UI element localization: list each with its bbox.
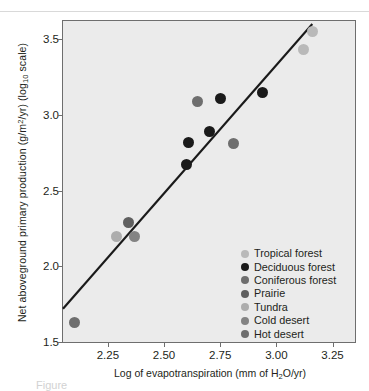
legend-item-label: Deciduous forest bbox=[254, 262, 335, 273]
figure-caption: Figure bbox=[36, 379, 67, 391]
x-axis-label-pre: Log of evapotranspiration (mm of H bbox=[114, 367, 279, 379]
x-axis-tick-mark bbox=[220, 342, 221, 347]
legend-item-label: Prairie bbox=[254, 288, 285, 299]
legend-item: Prairie bbox=[241, 287, 336, 300]
legend-item: Coniferous forest bbox=[241, 274, 336, 287]
y-axis-tick-label: 3.5 bbox=[43, 33, 59, 45]
x-axis-tick-mark bbox=[276, 342, 277, 347]
data-point bbox=[307, 26, 318, 37]
legend-marker-icon bbox=[241, 290, 249, 298]
legend-item: Tundra bbox=[241, 301, 336, 314]
legend-marker-icon bbox=[241, 250, 249, 258]
legend-marker-icon bbox=[241, 303, 249, 311]
data-point bbox=[123, 217, 134, 228]
x-axis-tick-mark bbox=[333, 342, 334, 347]
y-axis-label-mid: /yr) (log bbox=[16, 83, 28, 120]
y-axis-label-sub: 10 bbox=[21, 75, 30, 84]
legend-item-label: Tropical forest bbox=[254, 248, 322, 259]
y-axis-tick-mark bbox=[58, 342, 63, 343]
x-axis-tick-label: 2.75 bbox=[209, 349, 231, 361]
legend-item-label: Cold desert bbox=[254, 315, 309, 326]
data-point bbox=[192, 96, 203, 107]
x-axis-tick-mark bbox=[108, 342, 109, 347]
data-point bbox=[257, 87, 268, 98]
data-point bbox=[129, 231, 140, 242]
y-axis-tick-label: 1.5 bbox=[43, 336, 59, 348]
x-axis-tick-label: 3.25 bbox=[321, 349, 343, 361]
legend-item-label: Tundra bbox=[254, 302, 288, 313]
legend-marker-icon bbox=[241, 317, 249, 325]
legend-item: Tropical forest bbox=[241, 247, 336, 260]
y-axis-label-sup: 2 bbox=[16, 120, 25, 124]
legend-item: Hot desert bbox=[241, 327, 336, 340]
data-point bbox=[298, 44, 309, 55]
x-axis-tick-label: 2.25 bbox=[97, 349, 119, 361]
legend-marker-icon bbox=[241, 276, 249, 284]
y-axis-tick-label: 2.5 bbox=[43, 185, 59, 197]
data-point bbox=[111, 231, 122, 242]
data-point bbox=[69, 317, 80, 328]
data-point bbox=[215, 93, 226, 104]
x-axis-label: Log of evapotranspiration (mm of H2O/yr) bbox=[63, 367, 357, 381]
page-top-rule bbox=[0, 11, 369, 12]
y-axis-label: Net aboveground primary production (g/m2… bbox=[16, 21, 30, 344]
legend-marker-icon bbox=[241, 330, 249, 338]
x-axis-tick-label: 3.00 bbox=[265, 349, 287, 361]
legend: Tropical forestDeciduous forestConiferou… bbox=[241, 247, 336, 341]
y-axis-label-post: scale) bbox=[16, 43, 28, 75]
plot-inner: 1.52.02.53.03.5 2.252.502.753.003.25 Tro… bbox=[63, 21, 355, 342]
legend-item: Deciduous forest bbox=[241, 260, 336, 273]
x-axis-tick-mark bbox=[164, 342, 165, 347]
legend-item-label: Hot desert bbox=[254, 329, 304, 340]
legend-item-label: Coniferous forest bbox=[254, 275, 336, 286]
data-point bbox=[228, 138, 239, 149]
y-axis-tick-label: 2.0 bbox=[43, 260, 59, 272]
y-axis-tick-label: 3.0 bbox=[43, 109, 59, 121]
y-axis-label-pre: Net aboveground primary production (g/m bbox=[16, 124, 28, 322]
legend-marker-icon bbox=[241, 263, 249, 271]
y-axis-tick-mark bbox=[58, 266, 63, 267]
y-axis-tick-mark bbox=[58, 191, 63, 192]
x-axis-tick-label: 2.50 bbox=[153, 349, 175, 361]
data-point bbox=[204, 126, 215, 137]
y-axis-tick-mark bbox=[58, 115, 63, 116]
legend-item: Cold desert bbox=[241, 314, 336, 327]
plot-area: 1.52.02.53.03.5 2.252.502.753.003.25 Tro… bbox=[62, 20, 356, 343]
x-axis-label-post: O/yr) bbox=[283, 367, 306, 379]
data-point bbox=[183, 137, 194, 148]
data-point bbox=[181, 159, 192, 170]
y-axis-tick-mark bbox=[58, 39, 63, 40]
